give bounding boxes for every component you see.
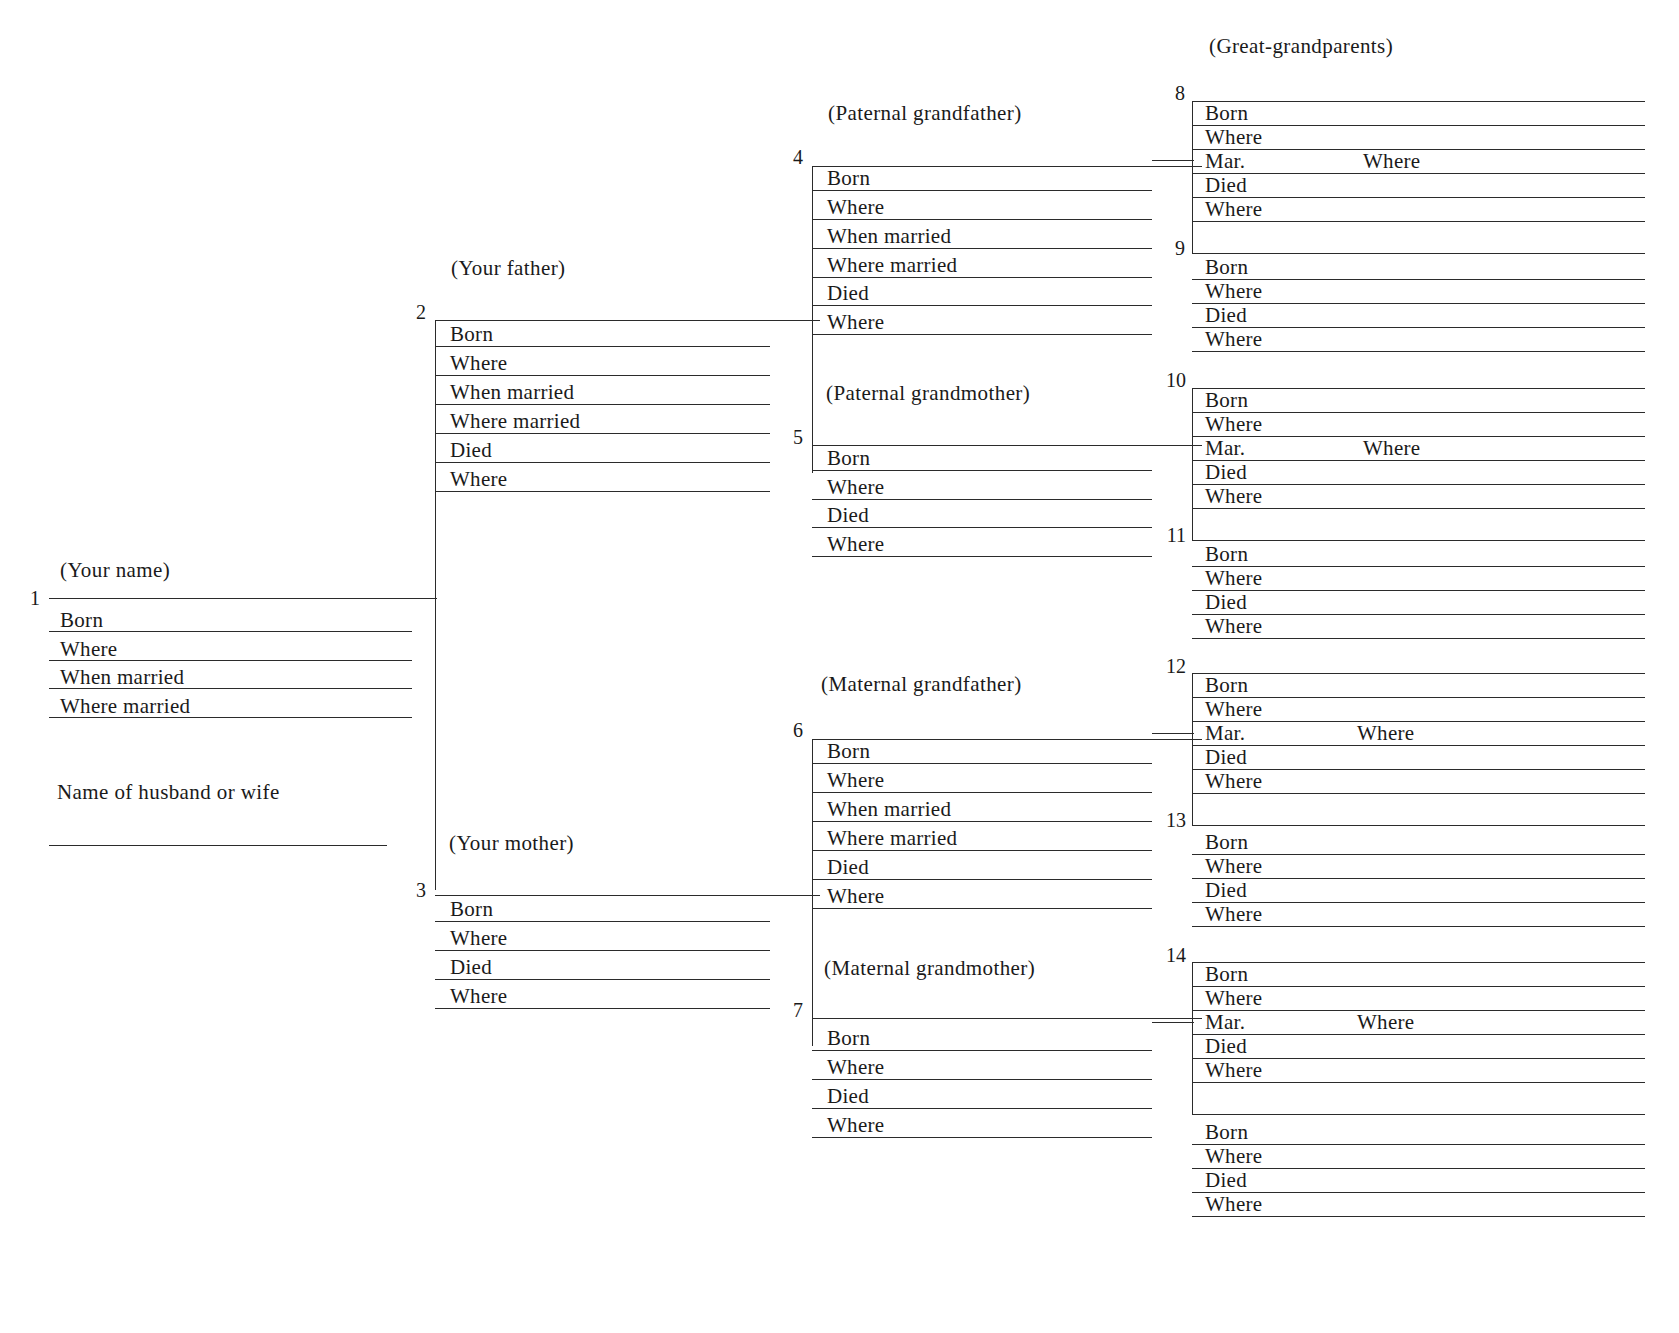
person-2-line-where-married[interactable] [435, 433, 770, 434]
person-8-row-where: Where [1205, 127, 1262, 148]
spouse-line[interactable] [49, 845, 387, 846]
person-3-row-died: Died [450, 957, 492, 978]
person-2-name-line[interactable] [435, 320, 820, 321]
person-4-line-where2[interactable] [812, 334, 1152, 335]
person-14-row-where: Where [1205, 988, 1262, 1009]
person-5-line-born[interactable] [812, 470, 1152, 471]
person-5-line-where2[interactable] [812, 556, 1152, 557]
person-11-line-where2[interactable] [1192, 638, 1645, 639]
person-10-line-where2[interactable] [1192, 508, 1645, 509]
person-12-line-blank[interactable] [1192, 825, 1645, 826]
person-11-line-where[interactable] [1192, 590, 1645, 591]
person-8-number: 8 [1165, 83, 1185, 103]
person-6-row-died: Died [827, 857, 869, 878]
person-6-line-died[interactable] [812, 879, 1152, 880]
person-1-line-when-married[interactable] [49, 688, 412, 689]
person-8-line-blank[interactable] [1192, 253, 1645, 254]
person-12-line-where2[interactable] [1192, 793, 1645, 794]
person-11-number: 11 [1156, 525, 1186, 545]
person-12-number: 12 [1156, 656, 1186, 676]
person-4-line-where[interactable] [812, 219, 1152, 220]
person-7-line-died[interactable] [812, 1108, 1152, 1109]
person-14-line-blank[interactable] [1192, 1114, 1645, 1115]
connector-spine-14-15 [1192, 962, 1193, 1114]
person-8-line-where2[interactable] [1192, 221, 1645, 222]
person-6-line-born[interactable] [812, 763, 1152, 764]
person-6-line-when-married[interactable] [812, 821, 1152, 822]
person-7-line-where2[interactable] [812, 1137, 1152, 1138]
person-10-line-blank[interactable] [1192, 540, 1645, 541]
person-3-line-where[interactable] [435, 950, 770, 951]
person-4-label: (Paternal grandfather) [828, 103, 1022, 124]
person-5-row-where: Where [827, 477, 884, 498]
person-13-line-where[interactable] [1192, 878, 1645, 879]
person-5-name-line[interactable] [812, 445, 1202, 446]
person-1-line-where[interactable] [49, 660, 412, 661]
person-9-line-where[interactable] [1192, 303, 1645, 304]
person-5-line-where[interactable] [812, 499, 1152, 500]
person-10-name-line[interactable] [1192, 388, 1645, 389]
person-4-name-line[interactable] [812, 166, 1202, 167]
person-1-name-line[interactable] [49, 598, 437, 599]
person-14-line-where[interactable] [1192, 1010, 1645, 1011]
person-4-line-when-married[interactable] [812, 248, 1152, 249]
person-2-row-where: Where [450, 353, 507, 374]
person-5-line-died[interactable] [812, 527, 1152, 528]
person-6-line-where[interactable] [812, 792, 1152, 793]
person-4-row-where2: Where [827, 312, 884, 333]
connector-2-to-45 [770, 320, 814, 321]
person-2-line-where[interactable] [435, 375, 770, 376]
person-7-row-born: Born [827, 1028, 870, 1049]
person-4-line-died[interactable] [812, 305, 1152, 306]
person-12-line-mar[interactable] [1192, 745, 1645, 746]
person-12-row-where: Where [1205, 699, 1262, 720]
person-8-row-mar: Mar. [1205, 151, 1245, 172]
person-13-line-where2[interactable] [1192, 926, 1645, 927]
person-14-line-where2[interactable] [1192, 1082, 1645, 1083]
person-6-row-when-married: When married [827, 799, 951, 820]
person-10-line-mar[interactable] [1192, 460, 1645, 461]
person-12-row-died: Died [1205, 747, 1247, 768]
person-15-line-where[interactable] [1192, 1168, 1645, 1169]
person-2-line-when-married[interactable] [435, 404, 770, 405]
person-3-line-where2[interactable] [435, 1008, 770, 1009]
person-14-name-line[interactable] [1192, 962, 1645, 963]
person-8-name-line[interactable] [1192, 101, 1645, 102]
person-4-line-born[interactable] [812, 190, 1152, 191]
person-6-row-where: Where [827, 770, 884, 791]
person-3-name-line[interactable] [435, 895, 820, 896]
person-5-row-born: Born [827, 448, 870, 469]
person-1-number: 1 [22, 588, 40, 608]
person-3-line-died[interactable] [435, 979, 770, 980]
person-13-number: 13 [1156, 810, 1186, 830]
person-15-row-where2: Where [1205, 1194, 1262, 1215]
person-8-line-mar[interactable] [1192, 173, 1645, 174]
person-6-name-line[interactable] [812, 739, 1202, 740]
person-2-row-where2: Where [450, 469, 507, 490]
person-7-row-where2: Where [827, 1115, 884, 1136]
person-4-line-where-married[interactable] [812, 277, 1152, 278]
person-3-line-born[interactable] [435, 921, 770, 922]
person-10-row-died: Died [1205, 462, 1247, 483]
person-1-line-where-married[interactable] [49, 717, 412, 718]
person-5-number: 5 [785, 427, 803, 447]
person-7-name-line[interactable] [812, 1018, 1202, 1019]
person-2-line-died[interactable] [435, 462, 770, 463]
person-6-line-where2[interactable] [812, 908, 1152, 909]
person-6-line-where-married[interactable] [812, 850, 1152, 851]
connector-6-to-1213 [1152, 733, 1194, 734]
person-12-name-line[interactable] [1192, 673, 1645, 674]
person-7-line-born[interactable] [812, 1050, 1152, 1051]
person-13-row-died: Died [1205, 880, 1247, 901]
person-5-row-died: Died [827, 505, 869, 526]
person-9-line-where2[interactable] [1192, 351, 1645, 352]
person-2-line-where2[interactable] [435, 491, 770, 492]
person-7-line-where[interactable] [812, 1079, 1152, 1080]
person-12-line-where[interactable] [1192, 721, 1645, 722]
person-15-line-where2[interactable] [1192, 1216, 1645, 1217]
person-2-line-born[interactable] [435, 346, 770, 347]
person-1-line-born[interactable] [49, 631, 412, 632]
person-9-row-born: Born [1205, 257, 1248, 278]
person-14-line-mar[interactable] [1192, 1034, 1645, 1035]
person-6-row-born: Born [827, 741, 870, 762]
